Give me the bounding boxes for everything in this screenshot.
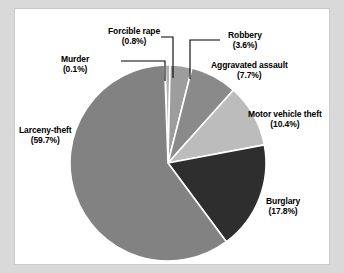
pie-label-murder-name: Murder <box>61 54 89 64</box>
pie-label-robbery: Robbery (3.6%) <box>228 30 262 50</box>
pie-label-burglary: Burglary (17.8%) <box>266 196 300 216</box>
pie-slice-group <box>70 65 266 261</box>
pie-chart-panel: Larceny-theft (59.7%) Murder (0.1%) Forc… <box>14 8 330 265</box>
pie-label-motor-vehicle-theft-name: Motor vehicle theft <box>248 109 322 119</box>
pie-label-aggravated-assault-name: Aggravated assault <box>211 60 288 70</box>
pie-label-motor-vehicle-theft-percent: (10.4%) <box>248 119 322 129</box>
pie-label-burglary-name: Burglary <box>266 196 300 206</box>
pie-label-murder: Murder (0.1%) <box>61 54 89 74</box>
pie-label-larceny-theft-percent: (59.7%) <box>19 135 72 145</box>
pie-label-murder-percent: (0.1%) <box>61 64 89 74</box>
figure-root: Larceny-theft (59.7%) Murder (0.1%) Forc… <box>0 0 344 273</box>
pie-label-robbery-percent: (3.6%) <box>228 40 262 50</box>
pie-label-forcible-rape: Forcible rape (0.8%) <box>108 26 160 46</box>
pie-label-aggravated-assault: Aggravated assault (7.7%) <box>211 60 288 80</box>
pie-label-forcible-rape-name: Forcible rape <box>108 26 160 36</box>
pie-label-motor-vehicle-theft: Motor vehicle theft (10.4%) <box>248 109 322 129</box>
pie-label-forcible-rape-percent: (0.8%) <box>108 36 160 46</box>
pie-label-aggravated-assault-percent: (7.7%) <box>211 70 288 80</box>
pie-label-robbery-name: Robbery <box>228 30 262 40</box>
pie-label-larceny-theft: Larceny-theft (59.7%) <box>19 125 72 145</box>
pie-label-larceny-theft-name: Larceny-theft <box>19 125 72 135</box>
pie-label-burglary-percent: (17.8%) <box>266 206 300 216</box>
